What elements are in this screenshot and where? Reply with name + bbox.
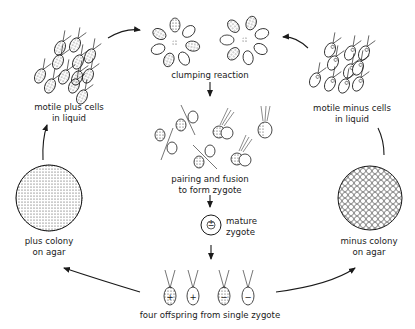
pairing-cells-illustration [155,105,272,169]
label-offspring: four offspring from single zygote [110,310,310,321]
offspring-symbol-1: + [164,292,176,303]
label-minus-colony: minus colony on agar [326,236,412,257]
label-mature-zygote: mature zygote [226,216,266,237]
motile-minus-cells-illustration [307,32,376,95]
arrow-minus-to-clumping [283,37,308,48]
arrow-plus-to-clumping [108,30,140,38]
clumping-cluster-right [220,15,270,66]
offspring-symbol-2: + [187,292,199,303]
offspring-symbol-3: − [218,292,230,303]
label-plus-colony: plus colony on agar [6,236,92,257]
arrow-offspring-to-minus-colony [276,268,355,292]
arrow-plus-colony-to-motile [43,125,47,160]
plus-colony-illustration [16,165,82,231]
motile-plus-cells-illustration [32,27,102,106]
offspring-symbol-4: − [242,292,254,303]
arrow-minus-colony-to-motile [378,128,384,155]
label-clumping: clumping reaction [150,70,270,81]
arrow-offspring-to-plus-colony [64,268,140,292]
mature-zygote-symbol: ± [203,219,219,230]
life-cycle-diagram [0,0,415,329]
label-pairing: pairing and fusion to form zygote [150,174,270,195]
clumping-cluster-left [150,18,201,68]
minus-colony-illustration [338,166,402,230]
label-motile-plus: motile plus cells in liquid [4,102,134,123]
label-motile-minus: motile minus cells in liquid [292,103,412,124]
offspring-illustration [164,270,254,305]
